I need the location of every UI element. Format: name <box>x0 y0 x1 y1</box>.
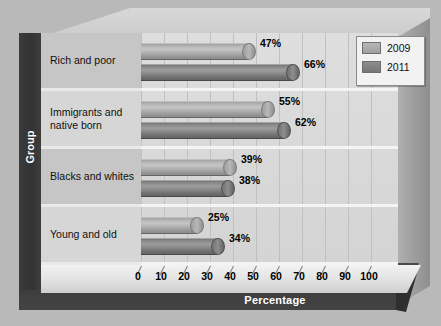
bar-2009-young-and-old[interactable] <box>141 217 204 234</box>
bar-shadow <box>141 80 293 81</box>
bar-highlight <box>141 101 268 102</box>
bar-body <box>141 159 230 176</box>
bar-2011-young-and-old[interactable] <box>141 238 225 255</box>
chart-screenshot: Percentage Group Rich and poor Immigrant… <box>0 0 441 326</box>
legend-label-2009: 2009 <box>387 42 410 54</box>
bar-value-2009-young-and-old: 25% <box>208 211 229 223</box>
bar-value-2011-immigrants: 62% <box>295 116 316 128</box>
band-separator-4 <box>141 262 398 265</box>
legend: 2009 2011 <box>356 36 425 86</box>
bar-value-2011-blacks-and-whites: 38% <box>239 174 260 186</box>
bar-highlight <box>141 180 228 181</box>
bar-2011-immigrants[interactable] <box>141 122 291 139</box>
bar-2009-rich-and-poor[interactable] <box>141 43 256 60</box>
bar-end-cap <box>190 217 204 234</box>
band-separator-1 <box>141 88 398 91</box>
category-label-young-and-old: Young and old <box>41 228 117 241</box>
bar-end-cap <box>242 43 256 60</box>
bar-body <box>141 238 218 255</box>
category-label-immigrants-line1: Immigrants and <box>50 106 122 118</box>
gridline-70 <box>302 33 303 265</box>
bar-2011-blacks-and-whites[interactable] <box>141 180 235 197</box>
bar-end-cap <box>277 122 291 139</box>
bar-value-2009-blacks-and-whites: 39% <box>241 153 262 165</box>
bar-highlight <box>141 122 284 123</box>
gridline-80 <box>325 33 326 265</box>
bar-2011-rich-and-poor[interactable] <box>141 64 300 81</box>
x-tick-label-90: 90 <box>332 270 358 282</box>
bar-end-cap <box>221 180 235 197</box>
bar-value-2009-immigrants: 55% <box>279 95 300 107</box>
x-axis-title: Percentage <box>190 294 360 306</box>
bar-shadow <box>141 233 197 234</box>
bar-end-cap <box>211 238 225 255</box>
bar-shadow <box>141 117 268 118</box>
bar-highlight <box>141 159 230 160</box>
category-label-rich-and-poor: Rich and poor <box>41 54 115 67</box>
band-separator-2 <box>141 146 398 149</box>
legend-entry-2011[interactable]: 2011 <box>362 61 410 73</box>
bar-body <box>141 43 249 60</box>
bar-body <box>141 180 228 197</box>
bar-value-2011-young-and-old: 34% <box>229 232 250 244</box>
legend-swatch-2009-icon <box>362 42 381 54</box>
bar-value-2009-rich-and-poor: 47% <box>260 37 281 49</box>
bar-highlight <box>141 64 293 65</box>
bar-shadow <box>141 254 218 255</box>
category-label-blacks-and-whites: Blacks and whites <box>41 170 134 183</box>
bar-end-cap <box>286 64 300 81</box>
bar-end-cap <box>261 101 275 118</box>
bar-2009-immigrants[interactable] <box>141 101 275 118</box>
bar-shadow <box>141 196 228 197</box>
category-band-immigrants: Immigrants andnative born <box>41 91 141 146</box>
x-tick-label-100: 100 <box>356 270 382 282</box>
bar-body <box>141 217 197 234</box>
gridline-90 <box>348 33 349 265</box>
bar-highlight <box>141 217 197 218</box>
bar-highlight <box>141 238 218 239</box>
legend-swatch-2011-icon <box>362 61 381 73</box>
bar-body <box>141 64 293 81</box>
category-band-rich-and-poor: Rich and poor <box>41 33 141 88</box>
bar-highlight <box>141 43 249 44</box>
bar-2009-blacks-and-whites[interactable] <box>141 159 237 176</box>
bar-body <box>141 122 284 139</box>
category-label-immigrants: Immigrants andnative born <box>41 106 122 131</box>
chart-3d-block: Percentage Group Rich and poor Immigrant… <box>10 8 430 316</box>
bar-shadow <box>141 59 249 60</box>
bar-body <box>141 101 268 118</box>
bar-shadow <box>141 138 284 139</box>
y-axis-title: Group <box>24 115 36 179</box>
category-label-immigrants-line2: native born <box>50 119 102 131</box>
bar-value-2011-rich-and-poor: 66% <box>304 58 325 70</box>
legend-entry-2009[interactable]: 2009 <box>362 42 410 54</box>
y-axis-wall: Group <box>19 33 41 290</box>
category-band-blacks-and-whites: Blacks and whites <box>41 149 141 204</box>
category-label-column: Rich and poor Immigrants andnative born … <box>41 33 141 265</box>
bar-shadow <box>141 175 230 176</box>
band-separator-3 <box>141 204 398 207</box>
category-band-young-and-old: Young and old <box>41 207 141 262</box>
legend-label-2011: 2011 <box>387 61 410 73</box>
bar-end-cap <box>223 159 237 176</box>
